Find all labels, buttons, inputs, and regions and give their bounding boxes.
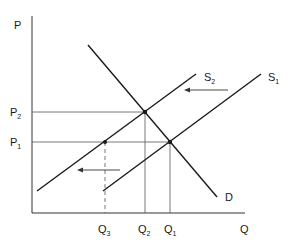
q3-label: Q3: [98, 223, 111, 237]
s1-label: S1: [268, 71, 279, 85]
supply-demand-diagram: P Q S2 S1 D P2 P1 Q3 Q2 Q1: [0, 0, 295, 246]
equilibrium-point-2: [143, 110, 147, 114]
p1-label: P1: [10, 136, 21, 150]
q1-label: Q1: [164, 223, 177, 237]
x-axis-label: Q: [240, 223, 249, 235]
d-label: D: [225, 191, 233, 203]
equilibrium-point-1: [168, 140, 172, 144]
shift-arrow-lower: [77, 168, 120, 173]
shift-arrow-upper: [184, 88, 228, 93]
p2-label: P2: [10, 106, 21, 120]
shortage-point-q3: [103, 140, 107, 144]
s2-label: S2: [204, 71, 215, 85]
supply-curve-s2: [37, 74, 196, 191]
y-axis-label: P: [14, 19, 21, 31]
q2-label: Q2: [138, 223, 151, 237]
